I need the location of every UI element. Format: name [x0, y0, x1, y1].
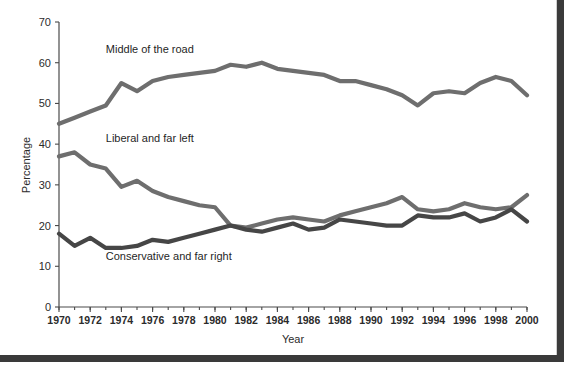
x-tick-label: 1974: [110, 314, 134, 326]
series-label: Middle of the road: [106, 43, 194, 55]
x-tick-label: 1990: [359, 314, 383, 326]
x-tick-label: 1978: [172, 314, 196, 326]
series-label: Conservative and far right: [106, 250, 232, 262]
y-tick-label: 10: [39, 260, 51, 272]
series-line: [59, 209, 527, 248]
y-tick-label: 0: [45, 301, 51, 313]
x-tick-label: 1998: [484, 314, 508, 326]
x-axis-ticks: 1970197219741976197819801982198419861988…: [47, 307, 539, 326]
y-tick-label: 60: [39, 57, 51, 69]
x-tick-label: 1994: [422, 314, 446, 326]
y-axis-title: Percentage: [20, 137, 32, 193]
y-tick-label: 70: [39, 16, 51, 28]
chart-axes: [59, 22, 527, 307]
x-tick-label: 1992: [391, 314, 415, 326]
chart-series-group: [59, 63, 527, 248]
x-tick-label: 1982: [235, 314, 259, 326]
x-tick-label: 1988: [328, 314, 352, 326]
x-tick-label: 1970: [47, 314, 71, 326]
y-tick-label: 50: [39, 97, 51, 109]
chart-svg: 010203040506070 197019721974197619781980…: [0, 0, 564, 372]
x-axis-title: Year: [282, 333, 305, 345]
line-chart: 010203040506070 197019721974197619781980…: [0, 0, 564, 372]
y-tick-label: 40: [39, 138, 51, 150]
x-tick-label: 1972: [79, 314, 103, 326]
x-tick-label: 1996: [453, 314, 477, 326]
x-tick-label: 1980: [203, 314, 227, 326]
x-tick-label: 1984: [266, 314, 290, 326]
chart-page: 010203040506070 197019721974197619781980…: [0, 0, 564, 372]
y-axis-ticks: 010203040506070: [39, 16, 59, 313]
x-tick-label: 1976: [141, 314, 165, 326]
x-tick-label: 2000: [515, 314, 539, 326]
series-line: [59, 63, 527, 124]
y-tick-label: 30: [39, 179, 51, 191]
series-label: Liberal and far left: [106, 132, 194, 144]
y-tick-label: 20: [39, 220, 51, 232]
x-tick-label: 1986: [297, 314, 321, 326]
